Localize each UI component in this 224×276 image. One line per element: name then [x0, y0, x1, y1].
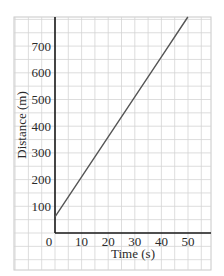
y-tick-label: 600 [32, 65, 52, 80]
distance-time-chart: 01020304050100200300400500600700 Time (s… [0, 0, 224, 276]
y-tick-label: 500 [32, 92, 52, 107]
tick-labels: 01020304050100200300400500600700 [32, 39, 195, 249]
y-tick-label: 100 [32, 199, 52, 214]
x-tick-label: 0 [46, 234, 53, 249]
x-tick-label: 50 [182, 234, 195, 249]
y-tick-label: 300 [32, 145, 52, 160]
y-tick-label: 700 [32, 39, 52, 54]
x-tick-label: 40 [155, 234, 168, 249]
y-tick-label: 200 [32, 172, 52, 187]
y-axis-label: Distance (m) [14, 91, 29, 159]
y-tick-label: 400 [32, 119, 52, 134]
grid-lines [14, 17, 211, 270]
x-axis-label: Time (s) [111, 246, 155, 261]
x-tick-label: 10 [75, 234, 88, 249]
plot-border [14, 17, 211, 270]
